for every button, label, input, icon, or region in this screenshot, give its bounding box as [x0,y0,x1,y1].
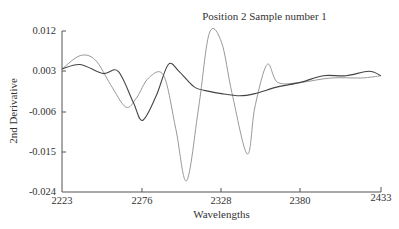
plot-area [0,0,399,229]
axes [62,31,381,192]
series-light-line [62,28,381,181]
series-dark-line [62,63,381,120]
